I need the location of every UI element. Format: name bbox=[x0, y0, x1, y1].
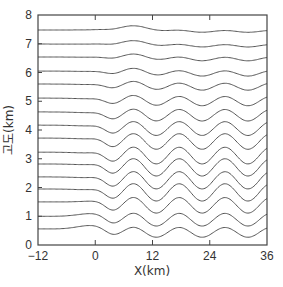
streamline-9 bbox=[38, 122, 267, 136]
streamline-7 bbox=[38, 147, 267, 164]
lee-wave-streamline-chart: 012345678 −120122436 X(km) 고도(km) bbox=[0, 0, 283, 287]
y-tick-label: 5 bbox=[25, 94, 32, 108]
x-tick-label: 24 bbox=[203, 249, 217, 263]
streamlines-group bbox=[38, 26, 267, 237]
y-tick-label: 8 bbox=[25, 8, 32, 22]
streamline-13 bbox=[38, 68, 267, 76]
streamline-6 bbox=[38, 159, 267, 176]
streamline-8 bbox=[38, 134, 267, 150]
streamline-10 bbox=[38, 109, 267, 121]
x-tick-label: 36 bbox=[260, 249, 274, 263]
x-axis-title: X(km) bbox=[134, 264, 170, 278]
y-tick-label: 3 bbox=[25, 152, 32, 166]
y-tick-label: 2 bbox=[25, 181, 32, 195]
x-axis: −120122436 bbox=[28, 15, 274, 263]
streamline-1 bbox=[38, 226, 267, 238]
y-axis: 012345678 bbox=[25, 8, 42, 252]
y-tick-label: 4 bbox=[25, 123, 32, 137]
streamline-2 bbox=[38, 213, 267, 226]
streamline-5 bbox=[38, 172, 267, 189]
streamline-11 bbox=[38, 96, 267, 106]
y-axis-title: 고도(km) bbox=[2, 105, 16, 155]
streamline-14 bbox=[38, 54, 267, 61]
plot-frame bbox=[38, 15, 267, 245]
y-tick-label: 6 bbox=[25, 66, 32, 80]
y-tick-label: 7 bbox=[25, 37, 32, 51]
streamline-16 bbox=[38, 26, 267, 33]
streamline-15 bbox=[38, 41, 267, 47]
x-tick-label: 0 bbox=[92, 249, 99, 263]
streamline-4 bbox=[38, 184, 267, 201]
x-tick-label: −12 bbox=[28, 249, 49, 263]
streamline-12 bbox=[38, 81, 267, 90]
y-tick-label: 1 bbox=[25, 209, 32, 223]
x-tick-label: 12 bbox=[146, 249, 160, 263]
